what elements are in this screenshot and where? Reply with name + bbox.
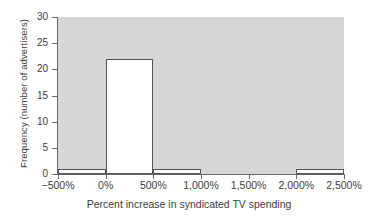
y-tick-mark (52, 17, 57, 18)
histogram-figure: Frequency (number of advertisers) 051015… (0, 0, 378, 222)
y-tick-mark (52, 69, 57, 70)
histogram-bar (106, 59, 154, 174)
bars-container (58, 17, 344, 174)
y-tick-label: 30 (8, 12, 48, 22)
y-tick-mark (52, 122, 57, 123)
y-tick-mark (52, 148, 57, 149)
y-tick-label: 10 (8, 117, 48, 127)
y-axis-line (57, 17, 58, 175)
y-tick-label: 15 (8, 91, 48, 101)
y-tick-mark (52, 96, 57, 97)
y-tick-label: 20 (8, 64, 48, 74)
y-tick-mark (52, 43, 57, 44)
plot-area (58, 17, 344, 174)
x-tick-label: 2,500% (309, 180, 378, 192)
x-axis-title: Percent increase in syndicated TV spendi… (0, 198, 378, 210)
y-tick-label: 25 (8, 38, 48, 48)
y-tick-label: 0 (8, 169, 48, 179)
y-tick-mark (52, 174, 57, 175)
y-tick-label: 5 (8, 143, 48, 153)
